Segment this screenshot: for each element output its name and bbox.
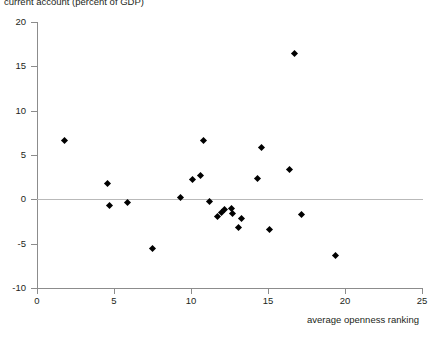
y-tick-label: 10 xyxy=(0,106,26,116)
x-tick-mark xyxy=(422,288,423,294)
x-tick-label: 0 xyxy=(22,296,52,306)
x-tick-label: 25 xyxy=(407,296,429,306)
x-tick-mark xyxy=(345,288,346,294)
y-tick-label: 0 xyxy=(0,194,26,204)
x-tick-label: 20 xyxy=(330,296,360,306)
x-axis-title: average openness ranking xyxy=(307,314,419,325)
x-tick-label: 10 xyxy=(176,296,206,306)
x-tick-mark xyxy=(114,288,115,294)
y-tick-mark xyxy=(31,199,37,200)
x-axis-line xyxy=(37,288,423,289)
y-tick-label: 5 xyxy=(0,150,26,160)
y-tick-label: 15 xyxy=(0,61,26,71)
x-tick-mark xyxy=(37,288,38,294)
x-tick-label: 15 xyxy=(253,296,283,306)
y-tick-mark xyxy=(31,244,37,245)
y-tick-mark xyxy=(31,155,37,156)
x-tick-mark xyxy=(191,288,192,294)
zero-reference-line xyxy=(37,199,423,200)
y-tick-label: 20 xyxy=(0,17,26,27)
y-tick-mark xyxy=(31,66,37,67)
y-tick-label: -10 xyxy=(0,283,26,293)
x-tick-mark xyxy=(268,288,269,294)
chart-title: current account (percent of GDP) xyxy=(4,0,144,7)
y-tick-mark xyxy=(31,111,37,112)
y-tick-label: -5 xyxy=(0,239,26,249)
scatter-chart-figure: current account (percent of GDP) 2015105… xyxy=(0,0,429,338)
plot-area xyxy=(37,22,422,288)
y-axis-line xyxy=(37,22,38,289)
y-tick-mark xyxy=(31,22,37,23)
x-tick-label: 5 xyxy=(99,296,129,306)
